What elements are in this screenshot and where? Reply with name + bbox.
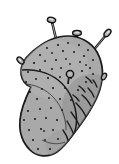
pin-center-head [66, 70, 73, 77]
potato-with-nails-drawing [0, 0, 119, 164]
nail-top-center-head-gleam [75, 31, 79, 33]
illustration-canvas: A line drawing of an elongated kidney-sh… [0, 0, 119, 164]
nail-top-center-head-group [73, 31, 82, 36]
